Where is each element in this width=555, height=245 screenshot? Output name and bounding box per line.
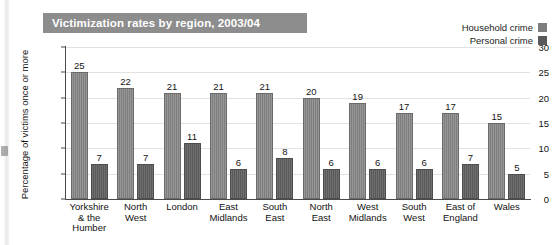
bar-group: 155 — [484, 47, 530, 199]
y-tick-label: 20 — [538, 92, 549, 103]
bar-value-label: 8 — [282, 146, 287, 157]
bar-value-label: 7 — [468, 152, 473, 163]
bar-value-label: 21 — [260, 81, 271, 92]
y-tick-label: 0 — [544, 194, 549, 205]
bar-household[interactable]: 20 — [303, 98, 320, 199]
bar-value-label: 6 — [375, 157, 380, 168]
bar-household[interactable]: 22 — [117, 88, 134, 199]
bar-household[interactable]: 19 — [349, 103, 366, 199]
bar-value-label: 6 — [329, 157, 334, 168]
x-tick-label: NorthWest — [112, 202, 158, 234]
x-tick-label: NorthEast — [298, 202, 344, 234]
bar-group: 218 — [252, 47, 298, 199]
bar-household[interactable]: 15 — [488, 123, 505, 199]
bar-chart: Percentage of victims once or more 30252… — [0, 0, 555, 245]
y-tick-label: 10 — [538, 143, 549, 154]
x-tick-label: WestMidlands — [344, 202, 390, 234]
bar-value-label: 25 — [74, 60, 85, 71]
x-tick-label: Yorkshire& theHumber — [66, 202, 112, 234]
bar-personal[interactable]: 6 — [230, 169, 247, 199]
bar-value-label: 17 — [445, 101, 456, 112]
bar-personal[interactable]: 7 — [462, 164, 479, 199]
bar-value-label: 19 — [352, 91, 363, 102]
bar-value-label: 5 — [514, 162, 519, 173]
y-tick-mark — [61, 199, 65, 200]
y-tick-mark — [61, 97, 65, 98]
bar-household[interactable]: 21 — [210, 93, 227, 199]
bar-value-label: 21 — [213, 81, 224, 92]
bar-value-label: 20 — [306, 86, 317, 97]
y-tick-mark — [61, 123, 65, 124]
chart-page: Victimization rates by region, 2003/04 H… — [0, 0, 555, 245]
x-axis-categories: Yorkshire& theHumberNorthWestLondonEastM… — [66, 202, 530, 234]
bar-group: 176 — [391, 47, 437, 199]
bar-household[interactable]: 17 — [442, 113, 459, 199]
bar-group: 206 — [298, 47, 344, 199]
bar-value-label: 7 — [97, 152, 102, 163]
y-tick-mark — [61, 173, 65, 174]
bar-personal[interactable]: 5 — [508, 174, 525, 199]
bar-group: 177 — [437, 47, 483, 199]
y-tick-label: 5 — [544, 168, 549, 179]
x-tick-label: East ofEngland — [437, 202, 483, 234]
bar-personal[interactable]: 7 — [91, 164, 108, 199]
bar-personal[interactable]: 7 — [137, 164, 154, 199]
y-tick-mark — [61, 47, 65, 48]
bar-personal[interactable]: 11 — [184, 143, 201, 199]
y-tick-label: 30 — [538, 42, 549, 53]
bar-value-label: 7 — [143, 152, 148, 163]
x-tick-label: SouthEast — [252, 202, 298, 234]
y-tick-mark — [61, 148, 65, 149]
bar-household[interactable]: 25 — [71, 72, 88, 199]
bar-personal[interactable]: 6 — [323, 169, 340, 199]
y-tick-label: 25 — [538, 67, 549, 78]
x-tick-label: EastMidlands — [205, 202, 251, 234]
y-tick-label: 15 — [538, 118, 549, 129]
bar-value-label: 17 — [399, 101, 410, 112]
bar-group: 196 — [344, 47, 390, 199]
y-tick-mark — [61, 72, 65, 73]
y-axis-label-text: Percentage of victims once or more — [20, 49, 31, 198]
y-axis-label: Percentage of victims once or more — [18, 48, 32, 200]
x-axis-line — [65, 199, 531, 200]
bar-household[interactable]: 21 — [256, 93, 273, 199]
bar-value-label: 6 — [421, 157, 426, 168]
bar-group: 257 — [66, 47, 112, 199]
bar-personal[interactable]: 6 — [416, 169, 433, 199]
x-tick-label: London — [159, 202, 205, 234]
bar-value-label: 6 — [236, 157, 241, 168]
bar-personal[interactable]: 6 — [369, 169, 386, 199]
bar-value-label: 15 — [492, 111, 503, 122]
bar-household[interactable]: 21 — [164, 93, 181, 199]
bar-value-label: 22 — [120, 76, 131, 87]
bar-value-label: 11 — [187, 131, 197, 142]
x-tick-label: SouthWest — [391, 202, 437, 234]
bar-group: 2111 — [159, 47, 205, 199]
bar-value-label: 21 — [167, 81, 178, 92]
bar-groups: 2572272111216218206196176177155 — [66, 47, 530, 199]
bar-personal[interactable]: 8 — [276, 158, 293, 199]
x-tick-label: Wales — [484, 202, 530, 234]
bar-group: 227 — [112, 47, 158, 199]
bar-group: 216 — [205, 47, 251, 199]
bar-household[interactable]: 17 — [396, 113, 413, 199]
